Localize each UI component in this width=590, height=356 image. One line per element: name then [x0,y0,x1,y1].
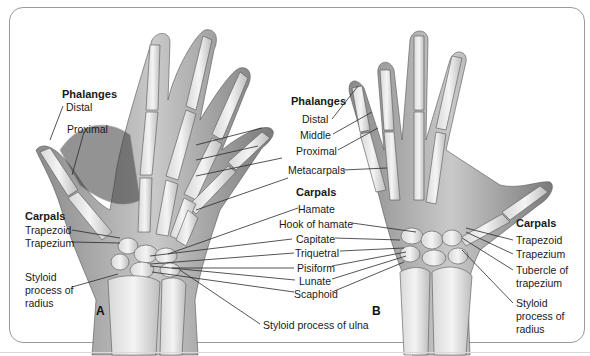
label-trapezium-a: Trapezium [25,237,74,249]
label-triquetral: Triquetral [295,247,339,259]
label-capitate: Capitate [296,233,335,245]
label-trapezoid-a: Trapezoid [25,224,71,236]
label-middle: Middle [300,129,331,141]
label-lunate: Lunate [299,275,331,287]
label-styloid-radius-b-1: Styloid [516,297,548,309]
label-styloid-radius-a-3: radius [25,297,54,309]
label-styloid-radius-b-3: radius [516,323,545,335]
label-proximal-a: Proximal [67,123,108,135]
label-hook-of-hamate: Hook of hamate [279,218,353,230]
label-metacarpals: Metacarpals [288,164,345,176]
phalanges-header-a: Phalanges [62,88,117,100]
hand-a [36,30,273,355]
carpals-header-a: Carpals [25,210,65,222]
label-scaphoid: Scaphoid [294,288,338,300]
label-styloid-radius-a-2: process of [25,284,73,296]
label-pisiform: Pisiform [297,262,335,274]
panel-label-a: A [96,304,105,318]
carpals-header-b: Carpals [516,217,556,229]
label-hamate: Hamate [298,203,335,215]
label-styloid-ulna: Styloid process of ulna [263,319,369,331]
label-distal-a: Distal [66,101,92,113]
label-trapezoid-b: Trapezoid [516,234,562,246]
carpals-header-center: Carpals [296,186,336,198]
label-styloid-radius-b-2: process of [516,310,564,322]
label-distal-b: Distal [302,113,328,125]
hand-skeleton-illustration [0,0,590,356]
label-tubercle-1: Tubercle of [516,264,568,276]
label-proximal-b: Proximal [296,145,337,157]
divider [0,352,590,353]
label-tubercle-2: trapezium [516,277,562,289]
label-trapezium-b: Trapezium [516,248,565,260]
phalanges-header-b: Phalanges [291,95,346,107]
label-styloid-radius-a-1: Styloid [25,271,57,283]
panel-label-b: B [372,304,381,318]
